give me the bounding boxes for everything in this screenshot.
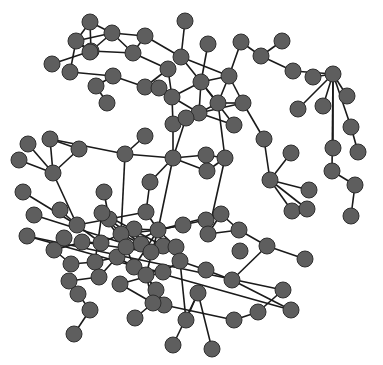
graph-node [178,110,194,126]
graph-node [66,326,82,342]
graph-node [297,251,313,267]
graph-node [274,33,290,49]
graph-node [105,68,121,84]
graph-node [339,88,355,104]
graph-node [173,49,189,65]
graph-node [91,269,107,285]
graph-node [235,95,251,111]
graph-node [217,150,233,166]
graph-node [199,163,215,179]
graph-node [82,302,98,318]
graph-node [175,217,191,233]
graph-node [178,312,194,328]
graph-node [99,95,115,111]
graph-node [138,204,154,220]
graph-node [151,80,167,96]
graph-node [45,165,61,181]
graph-node [74,234,90,250]
graph-node [301,182,317,198]
graph-node [343,119,359,135]
graph-node [343,208,359,224]
graph-node [299,201,315,217]
graph-node [117,146,133,162]
graph-node [15,184,31,200]
graph-node [137,128,153,144]
graph-node [168,239,184,255]
graph-node [155,264,171,280]
graph-node [221,68,237,84]
graph-node [347,177,363,193]
graph-node [165,337,181,353]
graph-node [198,262,214,278]
graph-edge [158,158,173,230]
graph-node [137,28,153,44]
graph-node [93,235,109,251]
graph-node [284,203,300,219]
graph-node [259,238,275,254]
graph-node [160,61,176,77]
graph-node [250,304,266,320]
graph-node [275,282,291,298]
graph-node [198,212,214,228]
graph-node [256,131,272,147]
graph-node [19,228,35,244]
graph-node [52,202,68,218]
graph-edge [198,293,212,349]
graph-node [324,163,340,179]
graph-node [315,98,331,114]
graph-node [325,140,341,156]
graph-edge [164,305,234,320]
graph-node [226,312,242,328]
graph-node [82,14,98,30]
graph-node [193,74,209,90]
graph-node [262,172,278,188]
graph-node [200,36,216,52]
graph-node [62,64,78,80]
graph-node [233,34,249,50]
graph-node [350,144,366,160]
graph-node [213,206,229,222]
graph-node [226,117,242,133]
graph-node [210,95,226,111]
graph-edge [121,154,125,234]
graph-node [42,131,58,147]
graph-node [56,230,72,246]
graph-node [198,147,214,163]
graph-node [283,302,299,318]
graph-node [172,253,188,269]
graph-node [145,295,161,311]
graph-node [285,63,301,79]
graph-node [165,150,181,166]
graph-node [200,226,216,242]
graph-node [127,310,143,326]
graph-node [87,254,103,270]
graph-node [150,222,166,238]
graph-node [283,145,299,161]
graph-node [204,341,220,357]
graph-node [68,33,84,49]
graph-node [94,205,110,221]
graph-node [305,69,321,85]
network-graph [0,0,383,365]
graph-node [224,272,240,288]
graph-node [69,217,85,233]
graph-node [325,66,341,82]
graph-node [232,243,248,259]
graph-node [125,45,141,61]
graph-node [104,25,120,41]
graph-node [190,285,206,301]
graph-node [82,44,98,60]
graph-node [231,222,247,238]
graph-node [118,239,134,255]
graph-node [177,13,193,29]
graph-node [142,174,158,190]
graph-nodes [11,13,366,357]
graph-node [11,152,27,168]
graph-node [70,286,86,302]
graph-node [71,141,87,157]
graph-node [26,207,42,223]
graph-node [138,267,154,283]
graph-node [253,48,269,64]
graph-node [20,136,36,152]
graph-node [143,244,159,260]
